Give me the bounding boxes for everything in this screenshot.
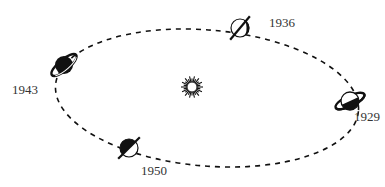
sun-icon [181,76,203,97]
year-label-1950: 1950 [141,163,167,178]
year-label-1936: 1936 [269,15,296,30]
year-label-1943: 1943 [12,82,38,97]
saturn-1950-icon [118,137,140,159]
orbit-diagram: 1929193619431950 [0,0,385,187]
orbit-path [50,17,365,179]
saturn-1936-icon [230,16,250,39]
saturn-1943-icon [48,51,79,80]
year-label-1929: 1929 [354,109,380,124]
